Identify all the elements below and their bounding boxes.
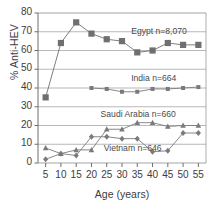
y-tick-label: 70 [6, 25, 32, 36]
data-point [165, 40, 171, 46]
y-tick-label: 20 [6, 119, 32, 130]
y-tick-label: 80 [6, 6, 32, 17]
data-point [104, 36, 110, 42]
data-point [58, 40, 64, 46]
data-point [166, 87, 170, 91]
data-point [180, 42, 186, 48]
data-point [104, 134, 109, 140]
y-tick-label: 60 [6, 44, 32, 55]
data-point [196, 130, 201, 136]
data-point [88, 31, 94, 37]
data-point [43, 156, 48, 162]
series-label: Vietnam n=646 [104, 143, 162, 153]
data-point [134, 49, 140, 55]
data-point [43, 94, 49, 100]
data-point [105, 87, 109, 91]
data-point [120, 90, 124, 94]
data-point [195, 42, 201, 48]
data-point [43, 145, 49, 150]
data-point [119, 38, 125, 44]
data-point [149, 47, 155, 53]
data-point [119, 136, 124, 142]
y-tick-label: 0 [6, 156, 32, 167]
y-tick-label: 30 [6, 100, 32, 111]
y-tick-label: 10 [6, 137, 32, 148]
chart-container: % Anti-HEV Age (years) 01020304050607080… [0, 0, 220, 211]
data-point [151, 87, 155, 91]
y-tick-label: 40 [6, 81, 32, 92]
data-point [181, 86, 185, 90]
data-point [135, 90, 139, 94]
series-label: Saudi Arabia n=660 [101, 109, 176, 119]
y-tick-label: 50 [6, 62, 32, 73]
data-point [73, 19, 79, 25]
data-point [196, 85, 200, 89]
data-point [89, 86, 93, 90]
series-label: India n=664 [131, 73, 176, 83]
series-label: Egypt n=8,070 [131, 26, 187, 36]
x-tick-label: 55 [187, 169, 209, 180]
